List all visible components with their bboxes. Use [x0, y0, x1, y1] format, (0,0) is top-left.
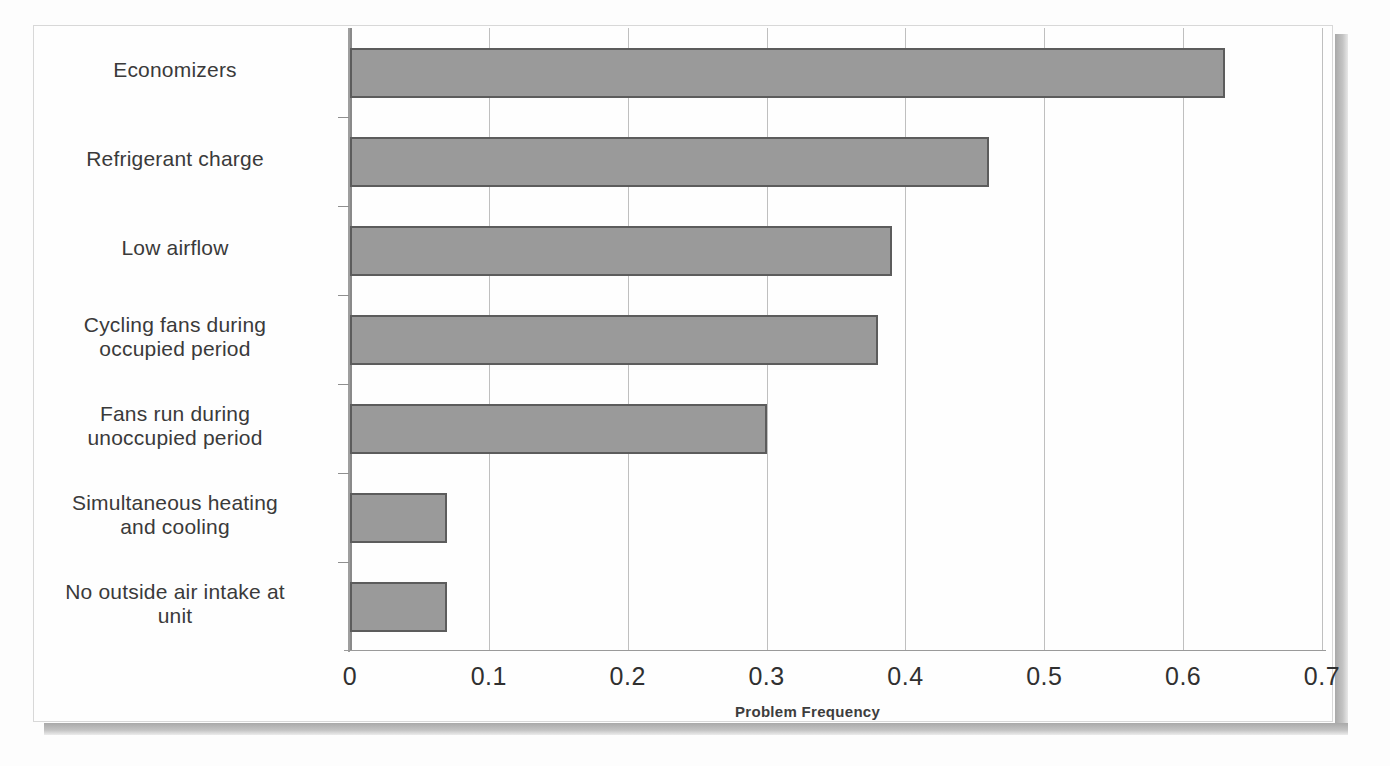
category-label: Simultaneous heating and cooling	[10, 491, 340, 541]
gridline-0.7	[1322, 28, 1323, 651]
bar	[350, 493, 447, 543]
y-axis-tick	[338, 295, 349, 296]
bar	[350, 315, 878, 365]
bar	[350, 226, 892, 276]
category-label: Low airflow	[10, 236, 340, 261]
x-tick-label: 0	[310, 662, 390, 691]
y-axis-tick	[338, 117, 349, 118]
gridline-0.6	[1183, 28, 1184, 651]
y-axis-tick	[338, 473, 349, 474]
category-label: Refrigerant charge	[10, 147, 340, 172]
bar	[350, 48, 1225, 98]
y-axis-tick	[338, 384, 349, 385]
y-axis-tick	[338, 562, 349, 563]
bar	[350, 137, 989, 187]
y-axis-tick	[338, 206, 349, 207]
category-label: Fans run during unoccupied period	[10, 402, 340, 452]
bar	[350, 404, 767, 454]
x-tick-label: 0.5	[1004, 662, 1084, 691]
x-axis-line	[344, 650, 1326, 651]
bar	[350, 582, 447, 632]
category-label: No outside air intake at unit	[10, 580, 340, 630]
x-tick-label: 0.6	[1143, 662, 1223, 691]
category-label: Economizers	[10, 58, 340, 83]
x-tick-label: 0.7	[1282, 662, 1362, 691]
x-tick-label: 0.1	[449, 662, 529, 691]
gridline-0.4	[905, 28, 906, 651]
figure-root: EconomizersRefrigerant chargeLow airflow…	[0, 0, 1390, 766]
x-tick-label: 0.4	[865, 662, 945, 691]
x-axis-title: Problem Frequency	[735, 703, 880, 720]
figure-shadow-right	[1335, 34, 1348, 734]
x-tick-label: 0.3	[727, 662, 807, 691]
gridline-0.5	[1044, 28, 1045, 651]
category-label: Cycling fans during occupied period	[10, 313, 340, 363]
figure-shadow-bottom	[44, 723, 1348, 735]
x-tick-label: 0.2	[588, 662, 668, 691]
